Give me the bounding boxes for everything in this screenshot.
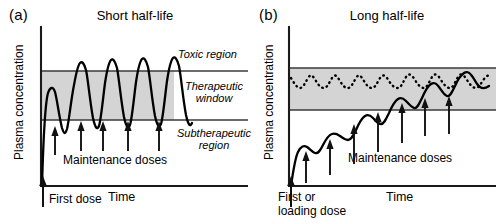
label-subtherapeutic-region: Subtherapeutic region (174, 127, 254, 152)
panel-a-y-axis-label: Plasma concentration (12, 45, 26, 160)
arrow-maintenance-dose-a (155, 121, 162, 151)
panel-b-letter: (b) (259, 6, 278, 23)
panel-long-half-life: (b) Long half-life Plasma concentration … (250, 0, 503, 224)
panel-a-letter: (a) (9, 6, 28, 23)
therapeutic-window-band-b (288, 68, 496, 110)
label-first-or-loading-dose-line2: loading dose (278, 204, 346, 218)
label-subtherapeutic-line1: Subtherapeutic (177, 127, 251, 139)
arrow-maintenance-dose-a (51, 126, 58, 155)
arrow-first-dose-a (39, 176, 47, 207)
panel-a-x-axis-label: Time (108, 190, 135, 204)
arrow-maintenance-dose-b (398, 103, 405, 143)
label-toxic-region: Toxic region (178, 48, 237, 60)
label-therapeutic-window-line1: Therapeutic (185, 80, 243, 92)
label-first-dose-a: First dose (49, 193, 102, 207)
figure-container: (a) Short half-life Plasma concentration… (0, 0, 503, 224)
label-therapeutic-window-line2: window (196, 92, 233, 104)
label-therapeutic-window: Therapeutic window (180, 80, 248, 105)
panel-b-y-axis-label: Plasma concentration (262, 45, 276, 160)
arrow-maintenance-dose-a (77, 121, 84, 151)
curve-long-half-life (291, 72, 489, 186)
label-maintenance-doses-a: Maintenance doses (63, 154, 167, 168)
arrow-maintenance-dose-b (326, 139, 333, 175)
arrow-maintenance-dose-b (302, 151, 309, 183)
curve-loading-dose-dotted (291, 74, 490, 88)
label-subtherapeutic-line2: region (199, 139, 230, 151)
arrow-maintenance-dose-b (445, 96, 452, 134)
panel-b-x-axis-label: Time (386, 190, 413, 204)
panel-b-title: Long half-life (312, 8, 462, 23)
panel-a-title: Short half-life (60, 8, 210, 23)
arrow-maintenance-dose-a (124, 121, 131, 151)
arrow-maintenance-dose-b (421, 98, 428, 136)
label-maintenance-doses-b: Maintenance doses (348, 152, 452, 166)
panel-short-half-life: (a) Short half-life Plasma concentration… (0, 0, 252, 224)
arrow-maintenance-dose-a (99, 121, 106, 151)
label-first-or-loading-dose: First or loading dose (278, 191, 346, 219)
label-first-or-loading-dose-line1: First or (278, 190, 315, 204)
therapeutic-window-band-a (40, 71, 174, 120)
arrow-maintenance-dose-b (374, 112, 381, 152)
